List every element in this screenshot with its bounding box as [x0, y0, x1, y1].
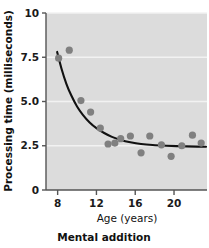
data-point — [55, 55, 62, 62]
data-point — [104, 140, 111, 147]
data-point — [198, 139, 205, 146]
x-tick-label-12: 12 — [89, 197, 104, 209]
x-tick-label-20: 20 — [167, 197, 182, 209]
x-axis-ticks — [58, 190, 174, 195]
x-axis-title: Age (years) — [97, 212, 158, 224]
y-tick-label-2.5: 2.5 — [20, 139, 39, 151]
data-point — [127, 132, 134, 139]
chart-svg: 02.55.07.510 8121620 Age (years) Process… — [0, 0, 209, 248]
y-tick-label-7.5: 7.5 — [20, 51, 39, 63]
data-point — [178, 142, 185, 149]
data-point — [117, 135, 124, 142]
y-tick-label-5: 5.0 — [20, 95, 39, 107]
data-point — [146, 132, 153, 139]
y-tick-label-10: 10 — [24, 7, 39, 19]
y-tick-label-0: 0 — [32, 184, 39, 196]
x-tick-label-8: 8 — [54, 197, 61, 209]
figure-caption: Mental addition — [57, 231, 150, 243]
data-point — [97, 124, 104, 131]
data-point — [189, 132, 196, 139]
data-point — [66, 47, 73, 54]
figure-container: 02.55.07.510 8121620 Age (years) Process… — [0, 0, 209, 248]
data-point — [168, 153, 175, 160]
data-point — [111, 139, 118, 146]
x-axis-tick-labels: 8121620 — [54, 197, 181, 209]
data-point — [137, 149, 144, 156]
data-point — [158, 141, 165, 148]
data-point — [87, 109, 94, 116]
x-tick-label-16: 16 — [128, 197, 143, 209]
y-axis-tick-labels: 02.55.07.510 — [20, 7, 39, 196]
y-axis-title: Processing time (milliseconds) — [2, 10, 14, 192]
data-point — [77, 97, 84, 104]
